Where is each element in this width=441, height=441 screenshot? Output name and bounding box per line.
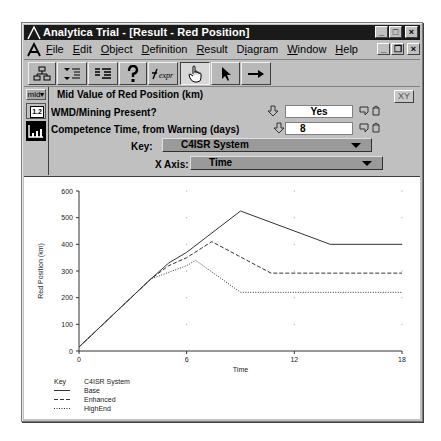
grid-dot — [294, 297, 295, 298]
bar-graph-icon — [26, 121, 46, 141]
x-tick-label: 6 — [185, 356, 189, 363]
y-tick-label: 600 — [61, 188, 73, 195]
arrow-connect-button[interactable] — [241, 62, 271, 85]
xy-button[interactable]: XY — [394, 90, 414, 103]
result-view-sidebar: mid▾ 1.2 — [24, 87, 49, 175]
browse-hand-button[interactable] — [180, 62, 210, 85]
grid-dot — [186, 244, 187, 245]
y-axis-label: Red Position (km) — [37, 243, 45, 299]
outline-list-button[interactable] — [88, 62, 118, 85]
legend-entry-base: Base — [84, 387, 100, 394]
grid-dot — [186, 271, 187, 272]
menu-definition[interactable]: Definition — [142, 41, 188, 58]
expression-button[interactable]: expr — [148, 62, 178, 85]
table-icon: 1.2 — [30, 106, 44, 118]
competence-time-field[interactable]: 8 — [285, 122, 353, 135]
y-tick-label: 100 — [61, 321, 73, 328]
expression-icon: expr — [150, 67, 176, 81]
graph-area: 0100200300400500600061218TimeRed Positio… — [24, 176, 420, 419]
grid-dot — [294, 271, 295, 272]
outline-down-button[interactable] — [57, 62, 87, 85]
close-button[interactable]: × — [405, 26, 418, 38]
diagram-icon — [33, 66, 51, 82]
grid-dot — [294, 324, 295, 325]
help-question-icon — [125, 65, 141, 83]
uncertainty-view-label: mid▾ — [28, 90, 45, 99]
svg-text:expr: expr — [159, 71, 174, 80]
key-dropdown[interactable]: C4ISR System — [162, 138, 372, 152]
arrow-pointer-icon — [219, 66, 233, 82]
input-label-competence: Competence Time, from Warning (days) — [51, 124, 239, 135]
xaxis-dropdown[interactable]: Time — [190, 156, 383, 170]
restore-icon: ❐ — [394, 44, 402, 54]
xaxis-value: Time — [209, 157, 232, 168]
y-tick-label: 200 — [61, 294, 73, 301]
x-axis-label: Time — [233, 366, 248, 373]
mdi-minimize-button[interactable]: _ — [377, 43, 390, 55]
red-position-chart: 0100200300400500600061218TimeRed Positio… — [24, 177, 422, 421]
title-bar[interactable]: Analytica Trial - [Result - Red Position… — [24, 25, 420, 40]
document-logo-icon[interactable] — [27, 42, 41, 57]
toolbar: expr — [24, 59, 420, 87]
analytica-window: Analytica Trial - [Result - Red Position… — [21, 22, 423, 422]
wmd-mining-value: Yes — [310, 106, 327, 117]
grid-dot — [402, 191, 403, 192]
outline-list-icon — [93, 66, 113, 82]
grid-dot — [186, 324, 187, 325]
window-title: Analytica Trial - [Result - Red Position… — [43, 25, 249, 40]
x-tick-label: 12 — [290, 356, 298, 363]
minimize-icon: _ — [381, 44, 386, 54]
minimize-icon: _ — [379, 27, 384, 37]
key-value: C4ISR System — [181, 139, 249, 150]
input-arrow-icon[interactable] — [267, 105, 279, 117]
close-icon: × — [411, 44, 416, 54]
legend-entry-enhanced: Enhanced — [84, 396, 116, 403]
menu-diagram[interactable]: Diagram — [237, 41, 279, 58]
legend-title: C4ISR System — [84, 378, 130, 386]
menu-result[interactable]: Result — [196, 41, 227, 58]
object-window-icons[interactable] — [359, 122, 383, 134]
menu-help[interactable]: Help — [335, 41, 358, 58]
menu-window[interactable]: Window — [287, 41, 326, 58]
input-label-wmd: WMD/Mining Present? — [51, 107, 157, 118]
y-tick-label: 0 — [69, 348, 73, 355]
grid-dot — [294, 191, 295, 192]
minimize-button[interactable]: _ — [375, 26, 388, 38]
chevron-down-icon — [351, 143, 361, 148]
diagram-button[interactable] — [28, 62, 56, 85]
maximize-icon: □ — [393, 27, 398, 37]
x-tick-label: 18 — [398, 356, 406, 363]
chevron-down-icon — [362, 161, 372, 166]
menu-object[interactable]: Object — [101, 41, 133, 58]
maximize-button[interactable]: □ — [389, 26, 402, 38]
arrow-pointer-button[interactable] — [211, 62, 240, 85]
x-tick-label: 0 — [77, 356, 81, 363]
grid-dot — [186, 217, 187, 218]
grid-dot — [402, 271, 403, 272]
xaxis-label: X Axis: — [155, 159, 189, 170]
graph-view-button[interactable] — [26, 121, 46, 141]
grid-dot — [294, 244, 295, 245]
close-icon: × — [409, 27, 414, 37]
legend-key-header: Key — [54, 378, 67, 386]
wmd-mining-field[interactable]: Yes — [285, 105, 353, 118]
result-title: Mid Value of Red Position (km) — [57, 89, 203, 100]
uncertainty-view-dropdown[interactable]: mid▾ — [26, 89, 46, 100]
input-arrow-icon[interactable] — [273, 122, 285, 134]
hand-browse-icon — [187, 65, 203, 83]
y-tick-label: 400 — [61, 241, 73, 248]
menu-edit[interactable]: Edit — [73, 41, 92, 58]
object-window-icons[interactable] — [359, 105, 383, 117]
grid-dot — [402, 324, 403, 325]
y-tick-label: 500 — [61, 214, 73, 221]
menu-file[interactable]: File — [46, 41, 64, 58]
grid-dot — [186, 297, 187, 298]
table-view-button[interactable]: 1.2 — [26, 103, 46, 119]
mdi-restore-button[interactable]: ❐ — [391, 43, 404, 55]
arrow-connect-icon — [247, 68, 265, 80]
legend-entry-highend: HighEnd — [84, 405, 111, 413]
key-label: Key: — [131, 141, 153, 152]
help-button[interactable] — [119, 62, 147, 85]
mdi-close-button[interactable]: × — [407, 43, 420, 55]
outline-down-icon — [62, 66, 82, 82]
